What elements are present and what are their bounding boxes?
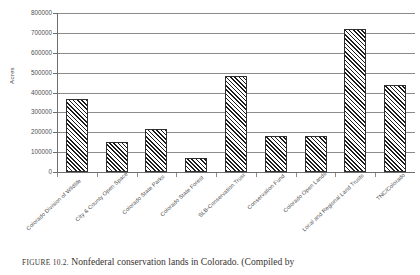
y-tick-mark: [53, 112, 57, 113]
bar: [225, 76, 247, 172]
category-label: Conservation Fund: [246, 172, 286, 210]
category-label: TNC/Colorado: [375, 172, 406, 202]
y-tick-label: 0: [8, 168, 52, 175]
y-tick-mark: [53, 93, 57, 94]
bar: [145, 129, 167, 172]
x-tick-mark: [176, 173, 177, 177]
bar: [106, 142, 128, 172]
x-tick-mark: [97, 173, 98, 177]
category-label: SLB-Conservation Trust: [197, 172, 246, 218]
y-tick-mark: [53, 13, 57, 14]
figure-caption-label: FIGURE 10.2.: [22, 258, 69, 267]
x-tick-mark: [335, 173, 336, 177]
x-axis-category-labels: Colorado Division of WildlifeCity & Coun…: [0, 176, 420, 248]
bar: [344, 29, 366, 172]
bar: [185, 158, 207, 172]
y-tick-label: 300000: [8, 108, 52, 115]
figure-caption: FIGURE 10.2. Nonfederal conservation lan…: [22, 256, 414, 267]
y-tick-mark: [53, 132, 57, 133]
y-tick-mark: [53, 33, 57, 34]
x-tick-mark: [57, 173, 58, 177]
category-label: Colorado State Parks: [121, 173, 165, 215]
y-tick-label: 400000: [8, 89, 52, 96]
y-tick-label: 200000: [8, 128, 52, 135]
bar: [66, 99, 88, 173]
bars-layer: [57, 13, 415, 172]
bar: [265, 136, 287, 172]
bar: [305, 136, 327, 172]
category-label: Colorado Open Lands: [282, 171, 328, 214]
y-tick-label: 500000: [8, 69, 52, 76]
y-tick-label: 100000: [8, 148, 52, 155]
y-tick-label: 600000: [8, 49, 52, 56]
x-tick-mark: [375, 173, 376, 177]
category-label: City & County Open Space: [74, 171, 129, 223]
x-tick-mark: [296, 173, 297, 177]
y-tick-mark: [53, 73, 57, 74]
figure-caption-text: Nonfederal conservation lands in Colorad…: [71, 256, 294, 267]
x-tick-mark: [137, 173, 138, 177]
y-tick-label: 800000: [8, 9, 52, 16]
category-label: Colorado State Forest: [159, 174, 205, 217]
bar: [384, 85, 406, 173]
y-tick-label: 700000: [8, 29, 52, 36]
x-tick-mark: [256, 173, 257, 177]
figure-container: Acres 0100000200000300000400000500000600…: [0, 0, 420, 275]
y-tick-mark: [53, 152, 57, 153]
category-label: Colorado Division of Wildlife: [25, 177, 82, 231]
y-tick-mark: [53, 53, 57, 54]
x-tick-mark: [216, 173, 217, 177]
